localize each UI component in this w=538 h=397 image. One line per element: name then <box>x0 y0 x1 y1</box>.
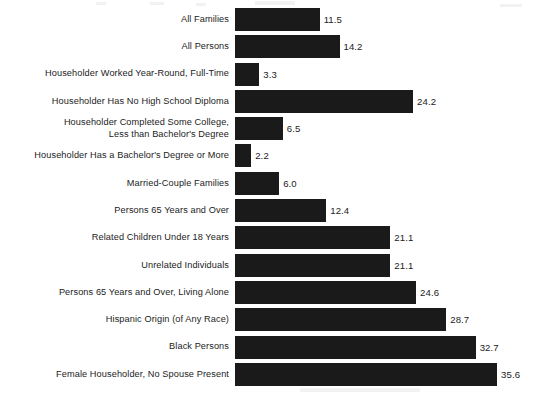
category-label: Married-Couple Families <box>0 178 235 189</box>
category-label: Unrelated Individuals <box>0 260 235 271</box>
bar-area: 21.1 <box>235 226 538 249</box>
bar-value-label: 6.5 <box>287 123 301 134</box>
bar-value-label: 14.2 <box>344 41 363 52</box>
bar-area: 32.7 <box>235 336 538 359</box>
bar-row: Householder Has a Bachelor's Degree or M… <box>0 144 538 167</box>
bar <box>235 281 416 304</box>
category-label: Black Persons <box>0 341 235 352</box>
bar-value-label: 35.6 <box>501 369 520 380</box>
bar-row: Persons 65 Years and Over, Living Alone2… <box>0 281 538 304</box>
category-label: Persons 65 Years and Over <box>0 205 235 216</box>
bar-area: 35.6 <box>235 363 538 386</box>
bar-row: Householder Has No High School Diploma24… <box>0 90 538 113</box>
bar-rows-container: All Families11.5All Persons14.2Household… <box>0 8 538 390</box>
category-label: Householder Has a Bachelor's Degree or M… <box>0 150 235 161</box>
bar <box>235 35 340 58</box>
bar <box>235 226 390 249</box>
bar-value-label: 24.2 <box>417 96 436 107</box>
bar-row: Householder Worked Year-Round, Full-Time… <box>0 63 538 86</box>
bar-value-label: 21.1 <box>394 232 413 243</box>
bar-area: 6.5 <box>235 117 538 140</box>
scan-artifact <box>255 1 295 5</box>
bar-value-label: 21.1 <box>394 260 413 271</box>
category-label: Female Householder, No Spouse Present <box>0 369 235 380</box>
bar-row: Unrelated Individuals21.1 <box>0 254 538 277</box>
category-label: Related Children Under 18 Years <box>0 232 235 243</box>
scan-artifact <box>150 2 164 5</box>
bar <box>235 8 320 31</box>
bar <box>235 90 413 113</box>
bar-row: Householder Completed Some College, Less… <box>0 117 538 140</box>
scan-artifact <box>500 4 522 7</box>
bar-area: 12.4 <box>235 199 538 222</box>
bar-area: 14.2 <box>235 35 538 58</box>
bar-area: 3.3 <box>235 63 538 86</box>
bar-row: Related Children Under 18 Years21.1 <box>0 226 538 249</box>
bar-value-label: 11.5 <box>324 14 342 25</box>
category-label: Householder Has No High School Diploma <box>0 96 235 107</box>
bar <box>235 199 326 222</box>
bar-row: Black Persons32.7 <box>0 336 538 359</box>
bar-row: Female Householder, No Spouse Present35.… <box>0 363 538 386</box>
category-label: Householder Worked Year-Round, Full-Time <box>0 68 235 79</box>
bar-area: 11.5 <box>235 8 538 31</box>
category-label: All Families <box>0 14 235 25</box>
bar-row: All Persons14.2 <box>0 35 538 58</box>
bar-value-label: 12.4 <box>330 205 349 216</box>
bar <box>235 117 283 140</box>
bar-value-label: 6.0 <box>283 178 297 189</box>
bar-value-label: 2.2 <box>255 150 269 161</box>
bar-area: 6.0 <box>235 172 538 195</box>
scan-artifact <box>96 2 106 5</box>
bar-row: Persons 65 Years and Over12.4 <box>0 199 538 222</box>
bar <box>235 172 279 195</box>
bar <box>235 144 251 167</box>
bar-area: 2.2 <box>235 144 538 167</box>
bar <box>235 336 476 359</box>
bar <box>235 63 259 86</box>
bar <box>235 308 446 331</box>
bar-value-label: 32.7 <box>480 342 499 353</box>
bar-row: Hispanic Origin (of Any Race)28.7 <box>0 308 538 331</box>
bar-value-label: 24.6 <box>420 287 439 298</box>
category-label: All Persons <box>0 41 235 52</box>
category-label: Hispanic Origin (of Any Race) <box>0 314 235 325</box>
bar-value-label: 3.3 <box>263 69 277 80</box>
bar-area: 24.2 <box>235 90 538 113</box>
bar-area: 24.6 <box>235 281 538 304</box>
category-label: Persons 65 Years and Over, Living Alone <box>0 287 235 298</box>
scan-artifact <box>196 3 206 6</box>
category-label: Householder Completed Some College, Less… <box>0 117 235 139</box>
bar-area: 28.7 <box>235 308 538 331</box>
bar <box>235 363 497 386</box>
bar-chart: All Families11.5All Persons14.2Household… <box>0 0 538 397</box>
bar-row: Married-Couple Families6.0 <box>0 172 538 195</box>
bar-row: All Families11.5 <box>0 8 538 31</box>
bar-area: 21.1 <box>235 254 538 277</box>
bar <box>235 254 390 277</box>
bar-value-label: 28.7 <box>450 314 469 325</box>
